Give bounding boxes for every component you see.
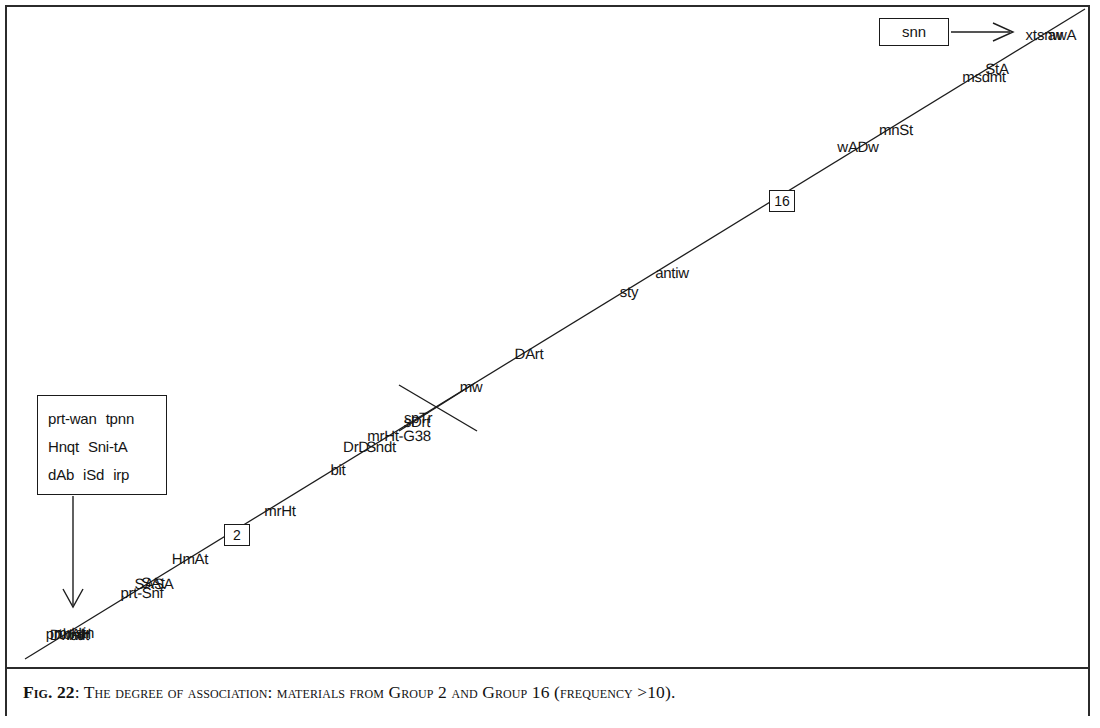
point-label: StA xyxy=(985,62,1008,77)
snn-callout-box[interactable]: snn xyxy=(879,18,949,46)
point-label: antiw xyxy=(655,266,689,281)
plot-vector-layer xyxy=(7,7,1088,667)
cluster-legend-item: tpnn xyxy=(106,410,134,427)
group-box-2[interactable]: 2 xyxy=(224,524,250,546)
cluster-legend-item: prt-wan xyxy=(48,410,97,427)
cluster-legend-item: Sni-tA xyxy=(88,438,128,455)
cluster-legend-box[interactable]: prt-wantpnn HnqtSni-tA dAbiSdirp xyxy=(37,395,167,495)
point-label: DArt xyxy=(515,347,544,362)
legend-pointer-arrow xyxy=(63,496,83,607)
figure-number: Fig. 22 xyxy=(23,682,75,702)
cluster-legend-item: irp xyxy=(113,466,129,483)
point-label: mnSt xyxy=(879,123,913,138)
point-label: wADw xyxy=(837,140,878,155)
point-label: mrHt-G38 xyxy=(367,429,430,444)
cluster-legend-item: dAb xyxy=(48,466,74,483)
cluster-legend-row: HnqtSni-tA xyxy=(48,433,158,461)
cluster-legend-item: Hnqt xyxy=(48,438,79,455)
scatter-plot-area: prt mrHt bAH sin Dwiw bdt prt-Snf SASA S… xyxy=(7,7,1088,667)
figure-caption: Fig. 22: The degree of association: mate… xyxy=(7,682,683,703)
caption-band: Fig. 22: The degree of association: mate… xyxy=(7,667,1088,716)
point-label: SAt xyxy=(141,576,164,591)
point-label: sDrt xyxy=(404,415,430,430)
group-box-16[interactable]: 16 xyxy=(769,190,795,212)
point-label: mw xyxy=(460,380,483,395)
point-label: bdt xyxy=(69,628,89,643)
figure-page: prt mrHt bAH sin Dwiw bdt prt-Snf SASA S… xyxy=(0,0,1100,728)
cluster-legend-row: prt-wantpnn xyxy=(48,405,158,433)
point-label: awA xyxy=(1048,28,1076,43)
point-label: DrD xyxy=(343,440,369,455)
point-label: mrHt xyxy=(264,504,295,519)
point-label: HmAt xyxy=(172,552,208,567)
snn-pointer-arrow xyxy=(951,23,1013,41)
point-label: bit xyxy=(331,463,346,478)
point-label: sty xyxy=(620,285,638,300)
cluster-legend-row: dAbiSdirp xyxy=(48,461,158,489)
caption-body: : The degree of association: materials f… xyxy=(75,682,676,702)
cluster-legend-item: iSd xyxy=(83,466,104,483)
point-label: xt xyxy=(1025,28,1036,43)
figure-frame: prt mrHt bAH sin Dwiw bdt prt-Snf SASA S… xyxy=(5,5,1090,716)
